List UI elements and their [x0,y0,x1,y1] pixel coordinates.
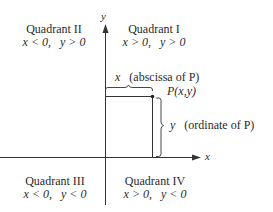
quadrant-iv-condition: x > 0, y < 0 [114,188,196,201]
point-label: P(x,y) [167,85,196,98]
ordinate-text: (ordinate of P) [184,118,254,132]
quadrant-ii: Quadrant II x < 0, y > 0 [14,23,94,49]
point-p [151,95,155,99]
abscissa-variable: x [115,70,120,84]
quadrant-i-condition: x > 0, y > 0 [114,36,194,49]
quadrant-ii-condition: x < 0, y > 0 [14,36,94,49]
quadrant-i: Quadrant I x > 0, y > 0 [114,23,194,49]
abscissa-text: (abscissa of P) [129,70,199,84]
quadrant-iii-condition: x < 0, y < 0 [14,188,96,201]
ordinate-annotation: y (ordinate of P) [170,119,254,132]
x-axis-arrow-icon [192,155,201,161]
quadrant-iv: Quadrant IV x > 0, y < 0 [114,175,196,201]
ordinate-variable: y [170,118,175,132]
abscissa-annotation: x (abscissa of P) [115,71,199,84]
quadrant-iii: Quadrant III x < 0, y < 0 [14,175,96,201]
x-axis-label: x [205,150,210,163]
y-axis-arrow-icon [103,24,109,33]
ordinate-brace-icon [156,98,164,157]
y-axis-label: y [101,10,106,23]
abscissa-brace-icon [106,85,153,93]
